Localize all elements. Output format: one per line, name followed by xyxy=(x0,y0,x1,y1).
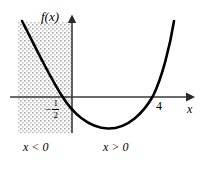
x-tick-label-4: 4 xyxy=(156,100,162,112)
region-label-negative: x < 0 xyxy=(23,141,48,153)
x-axis-label: x xyxy=(187,103,192,115)
fraction-numerator: 1 xyxy=(52,99,59,108)
fraction: 1 2 xyxy=(52,99,59,120)
x-tick-label-negative-one-half: − 1 2 xyxy=(45,99,59,120)
minus-sign: − xyxy=(45,104,51,115)
parabola-figure: f(x) x 4 − 1 2 x < 0 x > 0 xyxy=(0,0,208,171)
region-label-positive: x > 0 xyxy=(103,141,128,153)
y-axis-label: f(x) xyxy=(41,10,59,23)
fraction-denominator: 2 xyxy=(52,111,59,120)
